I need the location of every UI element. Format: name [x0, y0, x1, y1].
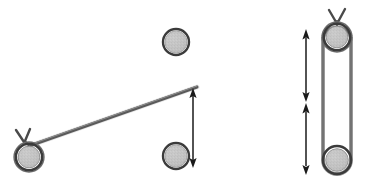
left-panel — [14, 29, 197, 172]
arrow-head-down — [302, 165, 309, 175]
top-right-pulley — [322, 9, 352, 52]
displacement-arrow — [189, 88, 196, 168]
arrow-head-up — [302, 103, 309, 114]
pulley-disc-texture — [326, 149, 348, 171]
figure-root: Pulley and inclined rod mechanism diagra… — [0, 0, 365, 189]
pulley-diagram: Pulley and inclined rod mechanism diagra… — [0, 0, 365, 189]
inclined-rod — [29, 86, 197, 146]
pulley-disc-texture — [326, 26, 348, 48]
upper-ball — [163, 29, 189, 55]
right-panel — [302, 9, 352, 175]
left-pulley — [14, 129, 44, 172]
lower-displacement-arrow — [302, 103, 309, 175]
upper-displacement-arrow — [302, 29, 309, 102]
lower-ball — [163, 143, 189, 169]
bottom-right-pulley — [323, 146, 351, 174]
pulley-disc-texture — [18, 146, 40, 168]
arrow-head-up — [302, 29, 309, 40]
